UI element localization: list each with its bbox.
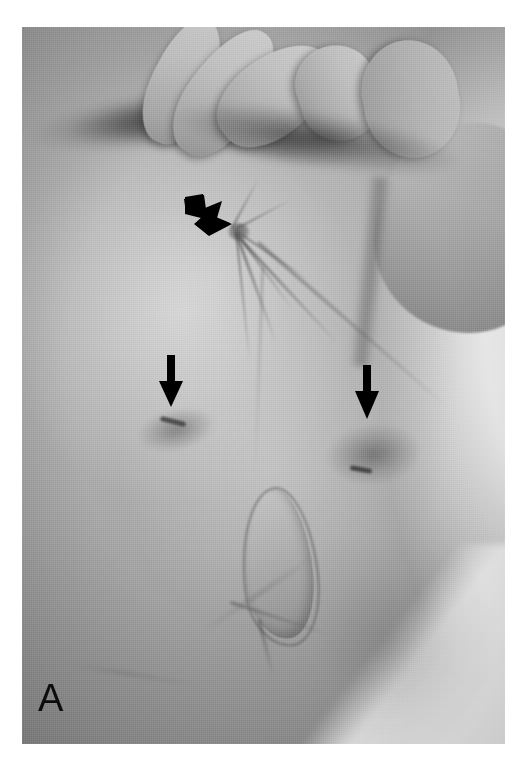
down-arrow-icon-left (156, 355, 186, 407)
figure-page: A (0, 0, 523, 763)
curved-arrow-icon (182, 193, 238, 237)
panel-label: A (38, 679, 63, 717)
down-arrow-icon-right (352, 365, 382, 419)
vignette-overlay (22, 27, 505, 744)
clinical-photograph: A (22, 27, 505, 744)
